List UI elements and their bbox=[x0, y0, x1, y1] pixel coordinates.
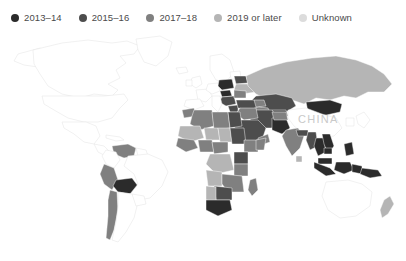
region-oceania bbox=[322, 168, 394, 218]
country-belarus[interactable] bbox=[234, 76, 248, 84]
country-united-states[interactable] bbox=[42, 94, 128, 122]
map-label-china: CHINA bbox=[298, 113, 339, 125]
country-namibia[interactable] bbox=[206, 186, 216, 202]
country-indonesia-java-borneo[interactable] bbox=[334, 162, 354, 174]
legend-label-2017-18: 2017–18 bbox=[159, 13, 197, 23]
legend-label-2015-16: 2015–16 bbox=[92, 13, 130, 23]
legend-item-2013-14[interactable]: 2013–14 bbox=[11, 13, 62, 23]
legend-dot-unknown bbox=[299, 14, 307, 22]
map-canvas[interactable]: CHINA bbox=[0, 34, 406, 261]
legend-label-2013-14: 2013–14 bbox=[24, 13, 62, 23]
country-mexico[interactable] bbox=[62, 122, 100, 144]
country-brazil[interactable] bbox=[124, 154, 168, 200]
world-map-svg[interactable]: CHINA bbox=[0, 34, 406, 261]
legend-item-unknown[interactable]: Unknown bbox=[299, 13, 352, 23]
country-madagascar[interactable] bbox=[248, 178, 258, 196]
legend-dot-2017-18 bbox=[146, 14, 154, 22]
map-visualization-root: 2013–14 2015–16 2017–18 2019 or later Un… bbox=[0, 0, 406, 261]
country-niger[interactable] bbox=[204, 128, 220, 140]
legend-dot-2019-or-later bbox=[214, 14, 222, 22]
country-papua-new-guinea[interactable] bbox=[360, 168, 382, 178]
country-poland[interactable] bbox=[218, 79, 234, 90]
legend: 2013–14 2015–16 2017–18 2019 or later Un… bbox=[0, 0, 406, 36]
country-malaysia[interactable] bbox=[318, 158, 332, 164]
country-cambodia[interactable] bbox=[324, 148, 332, 154]
country-south-africa[interactable] bbox=[206, 200, 232, 216]
country-sudan[interactable] bbox=[230, 128, 246, 144]
country-australia[interactable] bbox=[322, 180, 372, 218]
country-philippines[interactable] bbox=[344, 142, 354, 156]
country-ireland[interactable] bbox=[186, 80, 192, 86]
country-greenland[interactable] bbox=[136, 36, 172, 66]
country-cuba-caribbean[interactable] bbox=[106, 135, 124, 141]
country-kenya-uganda[interactable] bbox=[234, 152, 248, 164]
country-nigeria[interactable] bbox=[198, 140, 214, 152]
country-italy[interactable] bbox=[212, 96, 222, 112]
country-libya[interactable] bbox=[212, 112, 230, 130]
legend-label-unknown: Unknown bbox=[312, 13, 352, 23]
legend-dot-2013-14 bbox=[11, 14, 19, 22]
country-iceland[interactable] bbox=[176, 67, 188, 74]
country-nepal-bangladesh[interactable] bbox=[296, 130, 308, 136]
country-hungary[interactable] bbox=[220, 90, 232, 97]
country-koreas[interactable] bbox=[346, 118, 354, 126]
legend-item-2017-18[interactable]: 2017–18 bbox=[146, 13, 197, 23]
legend-dot-2015-16 bbox=[79, 14, 87, 22]
country-new-zealand[interactable] bbox=[380, 196, 394, 218]
country-cameroon-car[interactable] bbox=[212, 142, 228, 154]
country-afghanistan[interactable] bbox=[272, 112, 288, 120]
country-egypt[interactable] bbox=[228, 112, 242, 128]
region-south-america bbox=[100, 144, 168, 242]
country-norway-sweden-finland[interactable] bbox=[210, 54, 234, 82]
legend-item-2019-or-later[interactable]: 2019 or later bbox=[214, 13, 282, 23]
country-angola[interactable] bbox=[206, 170, 222, 186]
country-japan[interactable] bbox=[356, 112, 370, 128]
region-north-america bbox=[14, 36, 172, 156]
country-zimbabwe-botswana[interactable] bbox=[214, 186, 232, 200]
country-chad[interactable] bbox=[218, 128, 232, 142]
legend-label-2019-or-later: 2019 or later bbox=[227, 13, 282, 23]
country-greece[interactable] bbox=[228, 105, 238, 112]
country-tanzania[interactable] bbox=[234, 164, 248, 176]
country-romania[interactable] bbox=[234, 90, 246, 98]
country-somalia[interactable] bbox=[256, 138, 266, 150]
country-caucasus[interactable] bbox=[254, 100, 266, 107]
legend-item-2015-16[interactable]: 2015–16 bbox=[79, 13, 130, 23]
country-sri-lanka[interactable] bbox=[296, 156, 302, 162]
country-canada[interactable] bbox=[33, 40, 140, 98]
